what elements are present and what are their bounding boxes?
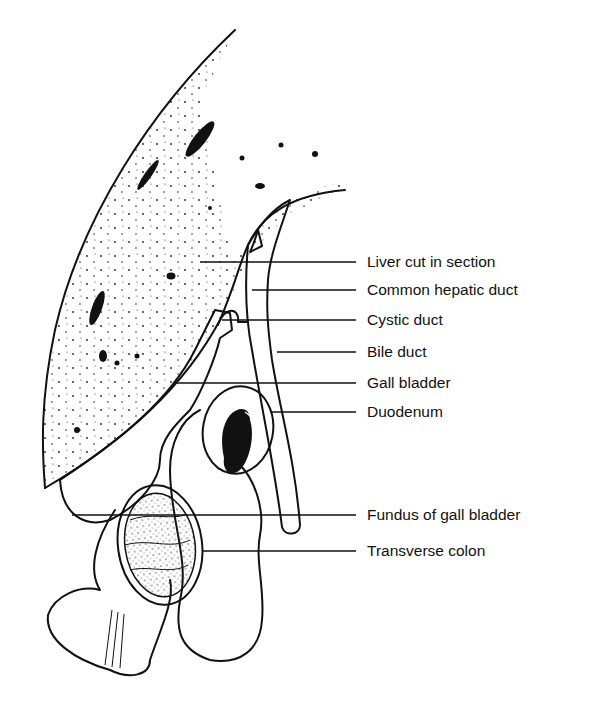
label-duodenum: Duodenum xyxy=(367,403,443,420)
bile-duct xyxy=(246,200,300,534)
label-liver: Liver cut in section xyxy=(367,253,495,270)
label-fundus: Fundus of gall bladder xyxy=(367,506,520,523)
label-common-hepatic-duct: Common hepatic duct xyxy=(367,281,518,298)
anatomy-diagram: Liver cut in section Common hepatic duct… xyxy=(0,0,593,708)
liver xyxy=(43,30,350,488)
label-bile-duct: Bile duct xyxy=(367,343,427,360)
label-transverse-colon: Transverse colon xyxy=(367,542,485,559)
labels: Liver cut in section Common hepatic duct… xyxy=(367,253,520,559)
label-cystic-duct: Cystic duct xyxy=(367,311,443,328)
label-gall-bladder: Gall bladder xyxy=(367,374,451,391)
